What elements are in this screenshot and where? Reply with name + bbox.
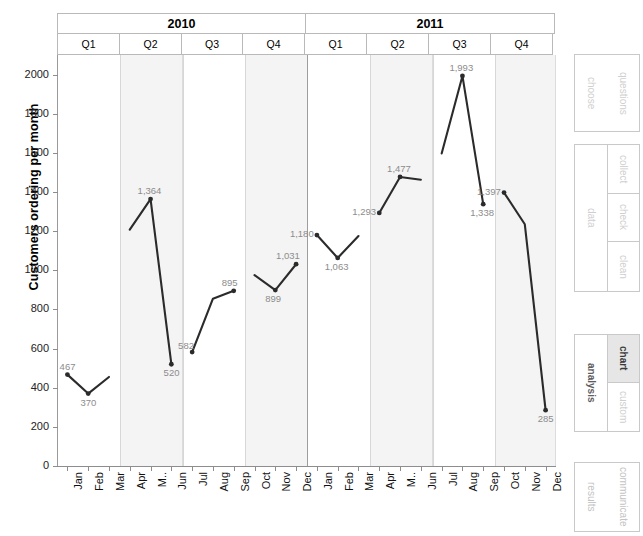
x-tick-mark-5: [171, 466, 172, 471]
y-tick-mark-1400: [53, 192, 58, 193]
quarter-header-2010-q2: Q2: [119, 34, 182, 55]
x-tick-label-1: Feb: [93, 472, 105, 532]
x-tick-mark-11: [296, 466, 297, 471]
x-axis-line: [57, 466, 556, 467]
data-label-4: 1,364: [138, 185, 162, 196]
shaded-band-2011-q4: [495, 55, 556, 467]
y-tick-mark-400: [53, 388, 58, 389]
x-tick-label-16: M..: [405, 472, 417, 532]
data-label-16: 1,477: [387, 163, 411, 174]
y-tick-label-1400: 1400: [5, 185, 49, 197]
plot-area: [57, 55, 555, 467]
sidebar-results-label: results: [585, 482, 597, 511]
sidebar-check-label: check: [618, 204, 630, 230]
x-tick-label-0: Jan: [72, 472, 84, 532]
y-tick-mark-1600: [53, 153, 58, 154]
y-tick-mark-0: [53, 466, 58, 467]
data-label-1: 370: [80, 397, 96, 408]
y-tick-mark-800: [53, 309, 58, 310]
data-label-20: 1,338: [470, 207, 494, 218]
quarter-header-2010-q3: Q3: [181, 34, 243, 55]
data-label-13: 1,063: [325, 261, 349, 272]
quarter-header-2011-q3: Q3: [428, 34, 491, 55]
sidebar-item-collect[interactable]: collect: [608, 145, 639, 194]
x-tick-label-6: Jul: [197, 472, 209, 532]
y-tick-mark-1800: [53, 114, 58, 115]
x-tick-label-9: Oct: [260, 472, 272, 532]
x-tick-mark-2: [109, 466, 110, 471]
y-tick-label-800: 800: [5, 302, 49, 314]
y-tick-mark-1000: [53, 270, 58, 271]
sidebar-panel-communicate-results[interactable]: results communicate: [574, 462, 640, 532]
x-tick-label-17: Jun: [426, 472, 438, 532]
data-label-12: 1,180: [290, 228, 314, 239]
data-label-10: 899: [265, 293, 281, 304]
x-tick-label-10: Nov: [280, 472, 292, 532]
sidebar-panel-choose-questions[interactable]: choose questions: [574, 54, 640, 132]
data-label-15: 1,293: [352, 206, 376, 217]
sidebar-analysis-label: analysis: [585, 363, 597, 402]
data-label-5: 520: [164, 367, 180, 378]
sidebar-communicate-label: communicate: [617, 467, 629, 526]
data-label-21: 1,397: [477, 186, 501, 197]
x-tick-mark-13: [338, 466, 339, 471]
sidebar-panel-data[interactable]: data collect check clean: [574, 144, 640, 292]
year-header-2010: 2010: [57, 13, 306, 34]
y-tick-label-2000: 2000: [5, 68, 49, 80]
sidebar-data-label: data: [585, 208, 597, 227]
workflow-sidebar: choose questions data collect check clea…: [570, 0, 643, 536]
data-label-11: 1,031: [276, 250, 300, 261]
x-tick-mark-1: [88, 466, 89, 471]
quarter-header-2011-q1: Q1: [304, 34, 367, 55]
quarter-header-2011-q2: Q2: [366, 34, 429, 55]
quarter-header-2010-q1: Q1: [57, 34, 120, 55]
y-tick-label-0: 0: [5, 459, 49, 471]
x-tick-label-8: Sep: [239, 472, 251, 532]
sidebar-collect-label: collect: [618, 155, 630, 183]
sidebar-custom-label: custom: [618, 391, 630, 423]
chart-page: Customers ordering per month 2010 2011 Q…: [0, 0, 643, 536]
data-label-6: 582: [178, 340, 194, 351]
x-tick-label-4: M..: [156, 472, 168, 532]
x-tick-mark-0: [67, 466, 68, 471]
x-tick-label-18: Jul: [447, 472, 459, 532]
sidebar-panel-analysis[interactable]: analysis chart custom: [574, 334, 640, 432]
x-tick-mark-15: [379, 466, 380, 471]
x-tick-label-2: Mar: [114, 472, 126, 532]
x-tick-mark-22: [525, 466, 526, 471]
shaded-band-2011-q2: [370, 55, 433, 467]
x-tick-label-14: Mar: [363, 472, 375, 532]
y-tick-mark-600: [53, 349, 58, 350]
sidebar-item-chart[interactable]: chart: [608, 335, 639, 383]
x-tick-label-5: Jun: [176, 472, 188, 532]
x-tick-mark-20: [483, 466, 484, 471]
x-tick-label-20: Sep: [488, 472, 500, 532]
x-tick-mark-4: [151, 466, 152, 471]
data-label-8: 895: [222, 277, 238, 288]
year-separator: [307, 55, 308, 467]
sidebar-item-check[interactable]: check: [608, 194, 639, 243]
x-tick-mark-3: [130, 466, 131, 471]
x-tick-label-15: Apr: [384, 472, 396, 532]
y-tick-label-600: 600: [5, 342, 49, 354]
y-tick-label-200: 200: [5, 420, 49, 432]
quarter-separator-1: [120, 55, 121, 467]
quarter-separator-2: [183, 55, 184, 467]
sidebar-chart-label: chart: [618, 346, 630, 370]
x-tick-mark-9: [255, 466, 256, 471]
data-label-0: 467: [60, 361, 76, 372]
data-label-19: 1,993: [449, 62, 473, 73]
y-tick-mark-1200: [53, 231, 58, 232]
quarter-header-2010-q4: Q4: [242, 34, 305, 55]
x-tick-mark-8: [234, 466, 235, 471]
quarter-separator-6: [433, 55, 434, 467]
x-tick-mark-16: [400, 466, 401, 471]
sidebar-clean-label: clean: [618, 255, 630, 279]
x-tick-mark-23: [546, 466, 547, 471]
x-tick-mark-6: [192, 466, 193, 471]
sidebar-item-custom[interactable]: custom: [608, 383, 639, 431]
year-header-2011: 2011: [305, 13, 555, 34]
sidebar-item-clean[interactable]: clean: [608, 242, 639, 291]
y-tick-label-1800: 1800: [5, 107, 49, 119]
x-tick-mark-21: [504, 466, 505, 471]
